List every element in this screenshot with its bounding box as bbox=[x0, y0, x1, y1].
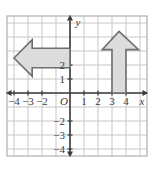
coordinate-plane-figure: −4−3−2123421−2−3−4Oxy bbox=[0, 0, 166, 175]
y-tick-label: −2 bbox=[53, 115, 65, 127]
shape-polygons bbox=[14, 31, 139, 93]
x-tick-label: −4 bbox=[8, 95, 20, 107]
x-tick-label: 1 bbox=[81, 95, 87, 107]
y-tick-label: 1 bbox=[60, 73, 66, 85]
up-pointing-arrow bbox=[102, 31, 138, 93]
y-tick-label: −4 bbox=[53, 143, 65, 155]
x-tick-label: 3 bbox=[109, 95, 115, 107]
y-tick-label: −3 bbox=[53, 129, 65, 141]
x-tick-label: 2 bbox=[95, 95, 101, 107]
y-tick-label: 2 bbox=[60, 59, 66, 71]
origin-label: O bbox=[60, 95, 68, 107]
y-axis-label: y bbox=[75, 16, 81, 28]
x-tick-label: −3 bbox=[22, 95, 34, 107]
x-axis-label: x bbox=[139, 95, 145, 107]
x-tick-label: 4 bbox=[123, 95, 129, 107]
x-tick-label: −2 bbox=[36, 95, 48, 107]
axes bbox=[6, 15, 148, 157]
coordinate-plane-svg: −4−3−2123421−2−3−4Oxy bbox=[0, 0, 166, 175]
